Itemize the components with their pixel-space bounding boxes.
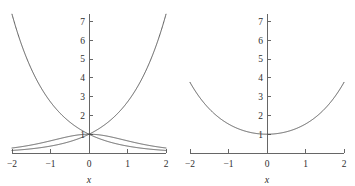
y-tick-label: 7	[80, 17, 85, 27]
x-tick-label: −1	[45, 159, 55, 169]
y-tick-label: 4	[258, 73, 263, 83]
y-tick-label: 3	[80, 92, 85, 102]
y-tick-label: 1	[258, 130, 263, 140]
figure-container: −2−10121234567x −2−10121234567x	[0, 0, 355, 186]
x-axis-label: x	[264, 174, 270, 185]
y-tick-label: 6	[80, 36, 85, 46]
x-tick-label: −2	[185, 159, 195, 169]
y-tick-label: 4	[80, 73, 85, 83]
x-axis-label: x	[86, 174, 92, 185]
x-tick-label: −2	[7, 159, 17, 169]
y-tick-label: 5	[80, 54, 85, 64]
y-tick-label: 3	[258, 92, 263, 102]
x-tick-label: 0	[87, 159, 92, 169]
y-tick-label: 6	[258, 36, 263, 46]
x-tick-label: 2	[164, 159, 169, 169]
plot-left: −2−10121234567x	[0, 0, 177, 186]
x-tick-label: −1	[223, 159, 233, 169]
y-tick-label: 5	[258, 54, 263, 64]
chart-panel-left: −2−10121234567x	[0, 0, 177, 186]
x-tick-label: 1	[125, 159, 130, 169]
x-tick-label: 1	[303, 159, 308, 169]
x-tick-label: 0	[265, 159, 270, 169]
y-tick-label: 2	[80, 111, 85, 121]
chart-panel-right: −2−10121234567x	[178, 0, 355, 186]
y-tick-label: 7	[258, 17, 263, 27]
plot-right: −2−10121234567x	[178, 0, 355, 186]
y-tick-label: 2	[258, 111, 263, 121]
x-tick-label: 2	[342, 159, 347, 169]
